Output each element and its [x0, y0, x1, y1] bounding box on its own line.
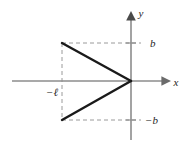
x-axis-label: x: [173, 76, 179, 88]
figure-container: x y b −b −ℓ: [0, 0, 188, 145]
label-b-positive: b: [150, 37, 156, 49]
label-x-negative-ell: −ℓ: [46, 86, 58, 98]
lower-segment-path: [62, 81, 131, 120]
axes-group: [12, 19, 163, 140]
upper-segment-path: [62, 43, 131, 81]
y-axis-label: y: [138, 7, 144, 19]
triangular-pulse-diagram: x y b −b −ℓ: [0, 0, 188, 145]
label-b-negative: −b: [145, 114, 158, 126]
